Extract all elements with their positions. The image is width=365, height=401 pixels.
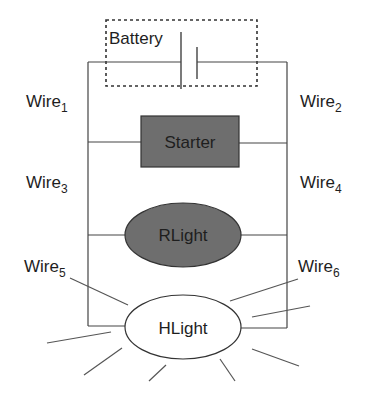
light-ray <box>149 365 166 381</box>
wire-label-5: Wire5 <box>24 257 66 280</box>
svg-text:Wire3: Wire3 <box>26 173 68 196</box>
light-ray <box>220 359 235 381</box>
light-ray <box>252 349 299 366</box>
svg-text:Wire1: Wire1 <box>26 92 68 115</box>
svg-text:Wire2: Wire2 <box>300 92 342 115</box>
starter-label: Starter <box>164 133 215 152</box>
svg-text:Wire6: Wire6 <box>298 257 340 280</box>
light-ray <box>252 306 310 317</box>
svg-text:Wire4: Wire4 <box>300 173 342 196</box>
wire6-leader <box>230 279 298 301</box>
wire-label-3: Wire3 <box>26 173 68 196</box>
rlight-label: RLight <box>158 226 207 245</box>
svg-text:Wire5: Wire5 <box>24 257 66 280</box>
wire-label-6: Wire6 <box>298 257 340 280</box>
circuit-diagram: Battery Starter RLight HLight Wire1 Wire… <box>0 0 365 401</box>
wire-label-2: Wire2 <box>300 92 342 115</box>
light-ray <box>84 348 122 375</box>
wire5-leader <box>70 278 128 305</box>
light-ray <box>47 332 111 343</box>
battery-label: Battery <box>109 29 163 48</box>
wire-label-4: Wire4 <box>300 173 342 196</box>
hlight-label: HLight <box>158 319 207 338</box>
wire-label-1: Wire1 <box>26 92 68 115</box>
